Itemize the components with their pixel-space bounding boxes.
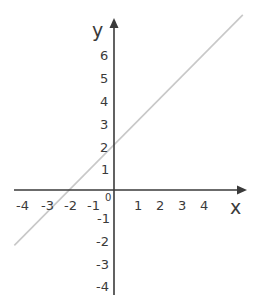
x-tick-label: -3 (41, 198, 54, 213)
y-tick-label: 2 (100, 140, 108, 155)
x-tick-label: -2 (64, 198, 77, 213)
y-tick-labels: 6 5 4 3 2 1 -1 -2 -3 -4 (96, 48, 110, 294)
coordinate-plane: y x 0 -4 -3 -2 -1 1 2 3 4 6 5 4 3 2 1 -1… (0, 0, 260, 308)
x-tick-label: 3 (178, 198, 186, 213)
y-tick-label: -2 (96, 234, 109, 249)
y-tick-label: 4 (100, 94, 108, 109)
x-tick-label: 2 (156, 198, 164, 213)
y-axis-label: y (92, 19, 103, 41)
x-tick-labels: -4 -3 -2 -1 1 2 3 4 (16, 198, 208, 213)
x-tick-label: 1 (134, 198, 142, 213)
x-tick-label: 4 (200, 198, 208, 213)
y-tick-label: -4 (96, 279, 109, 294)
origin-label: 0 (105, 192, 111, 203)
y-axis-arrow-icon (110, 18, 119, 28)
x-tick-label: -4 (16, 198, 29, 213)
y-tick-label: 5 (100, 71, 108, 86)
x-axis-label: x (230, 196, 241, 218)
y-tick-label: 1 (101, 162, 109, 177)
x-axis-arrow-icon (237, 186, 247, 195)
y-tick-label: 6 (100, 48, 108, 63)
y-tick-label: 3 (100, 117, 108, 132)
y-tick-label: -1 (97, 211, 110, 226)
y-tick-label: -3 (96, 257, 109, 272)
